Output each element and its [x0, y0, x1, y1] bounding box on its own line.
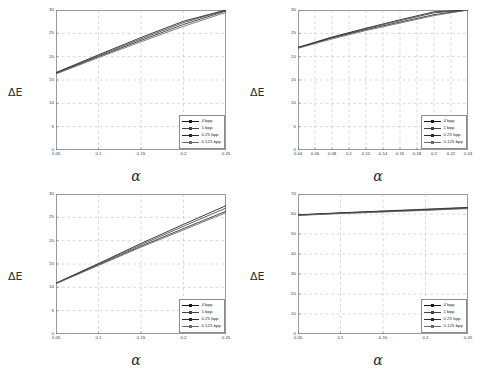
legend-label: 0.125 bpp — [441, 324, 463, 328]
legend-line-icon — [424, 118, 441, 125]
y-tick-label: 15 — [49, 78, 54, 82]
y-tick-label: 25 — [291, 31, 296, 35]
y-tick-label: 30 — [291, 8, 296, 12]
legend-item: 0.125 bpp — [182, 139, 221, 146]
y-tick-label: 0 — [52, 148, 54, 152]
legend-line-icon — [182, 139, 199, 146]
legend-line-icon — [424, 323, 441, 330]
legend-label: 1 bpp — [199, 310, 212, 314]
y-tick-label: 15 — [291, 78, 296, 82]
legend-item: 0.125 bpp — [424, 323, 463, 330]
y-tick-label: 10 — [49, 285, 54, 289]
y-tick-label: 30 — [291, 272, 296, 276]
x-tick-label: 0.2 — [180, 152, 186, 156]
x-tick-label: 0.25 — [222, 336, 231, 340]
y-tick-label: 0 — [294, 332, 296, 336]
subplot-top-right: ΔE 4 bpp1 bpp0.25 bpp0.125 bpp 0.040.060… — [242, 0, 484, 184]
legend-item: 1 bpp — [424, 125, 463, 132]
legend-line-icon — [424, 302, 441, 309]
legend-item: 0.25 bpp — [182, 132, 221, 139]
y-tick-label: 70 — [291, 192, 296, 196]
y-tick-label: 30 — [49, 8, 54, 12]
legend: 4 bpp1 bpp0.25 bpp0.125 bpp — [421, 299, 467, 333]
y-tick-label: 10 — [49, 101, 54, 105]
y-tick-label: 50 — [291, 232, 296, 236]
x-tick-label: 0.15 — [137, 152, 146, 156]
legend-item: 0.25 bpp — [424, 316, 463, 323]
y-tick-label: 0 — [294, 148, 296, 152]
legend-label: 4 bpp — [199, 303, 212, 307]
y-tick-label: 30 — [49, 192, 54, 196]
x-axis-label-wrap: α — [242, 168, 484, 184]
x-axis-label-wrap: α — [0, 168, 242, 184]
y-tick-label: 0 — [52, 332, 54, 336]
x-tick-label: 0.15 — [137, 336, 146, 340]
x-tick-label: 0.2 — [180, 336, 186, 340]
x-axis-label: α — [101, 352, 140, 368]
x-tick-label: 0.14 — [379, 152, 388, 156]
x-tick-label: 0.05 — [52, 336, 61, 340]
legend-item: 4 bpp — [424, 118, 463, 125]
legend-label: 0.125 bpp — [199, 324, 221, 328]
figure-four-subplots: ΔE 4 bpp1 bpp0.25 bpp0.125 bpp 0.050.10.… — [0, 0, 484, 368]
legend-line-icon — [424, 139, 441, 146]
legend-item: 4 bpp — [424, 302, 463, 309]
legend-item: 1 bpp — [182, 309, 221, 316]
series-line — [298, 209, 468, 216]
x-axis-label: α — [343, 352, 382, 368]
x-tick-label: 0.18 — [413, 152, 422, 156]
x-tick-label: 0.1 — [95, 336, 101, 340]
plot-area-top-left: 4 bpp1 bpp0.25 bpp0.125 bpp 0.050.10.150… — [56, 10, 226, 150]
legend-line-icon — [182, 323, 199, 330]
y-axis-label: ΔE — [8, 86, 22, 99]
y-tick-label: 5 — [52, 308, 54, 312]
x-tick-label: 0.08 — [328, 152, 337, 156]
legend-item: 1 bpp — [424, 309, 463, 316]
legend-label: 0.125 bpp — [441, 140, 463, 144]
legend-line-icon — [424, 309, 441, 316]
legend-line-icon — [182, 309, 199, 316]
x-tick-label: 0.1 — [95, 152, 101, 156]
y-tick-label: 5 — [52, 124, 54, 128]
y-tick-label: 20 — [49, 54, 54, 58]
y-axis-label: ΔE — [250, 86, 264, 99]
legend-line-icon — [182, 302, 199, 309]
legend-label: 0.25 bpp — [199, 317, 218, 321]
legend-item: 0.25 bpp — [182, 316, 221, 323]
x-tick-label: 0.05 — [294, 336, 303, 340]
y-tick-label: 5 — [294, 124, 296, 128]
y-tick-label: 40 — [291, 252, 296, 256]
legend-item: 0.25 bpp — [424, 132, 463, 139]
legend-line-icon — [424, 132, 441, 139]
legend-label: 1 bpp — [199, 126, 212, 130]
legend: 4 bpp1 bpp0.25 bpp0.125 bpp — [421, 115, 467, 149]
x-axis-label: α — [101, 168, 140, 184]
x-tick-label: 0.1 — [337, 336, 343, 340]
y-tick-label: 15 — [49, 262, 54, 266]
legend-line-icon — [182, 125, 199, 132]
x-tick-label: 0.05 — [52, 152, 61, 156]
y-tick-label: 20 — [291, 292, 296, 296]
legend: 4 bpp1 bpp0.25 bpp0.125 bpp — [179, 115, 225, 149]
legend-label: 1 bpp — [441, 126, 454, 130]
legend-label: 0.125 bpp — [199, 140, 221, 144]
subplot-bottom-left: ΔE 4 bpp1 bpp0.25 bpp0.125 bpp 0.050.10.… — [0, 184, 242, 368]
x-tick-label: 0.16 — [396, 152, 405, 156]
legend-item: 4 bpp — [182, 302, 221, 309]
legend-line-icon — [424, 125, 441, 132]
subplot-top-left: ΔE 4 bpp1 bpp0.25 bpp0.125 bpp 0.050.10.… — [0, 0, 242, 184]
x-tick-label: 0.2 — [431, 152, 437, 156]
x-axis-label-wrap: α — [242, 352, 484, 368]
x-tick-label: 0.12 — [362, 152, 371, 156]
y-tick-label: 25 — [49, 215, 54, 219]
y-axis-label: ΔE — [8, 270, 22, 283]
legend-item: 0.125 bpp — [182, 323, 221, 330]
y-tick-label: 60 — [291, 212, 296, 216]
x-tick-label: 0.25 — [464, 336, 473, 340]
plot-area-bottom-right: 4 bpp1 bpp0.25 bpp0.125 bpp 0.050.10.150… — [298, 194, 468, 334]
x-tick-label: 0.25 — [222, 152, 231, 156]
legend-item: 4 bpp — [182, 118, 221, 125]
legend-label: 4 bpp — [441, 303, 454, 307]
y-tick-label: 20 — [49, 238, 54, 242]
subplot-bottom-right: ΔE 4 bpp1 bpp0.25 bpp0.125 bpp 0.050.10.… — [242, 184, 484, 368]
